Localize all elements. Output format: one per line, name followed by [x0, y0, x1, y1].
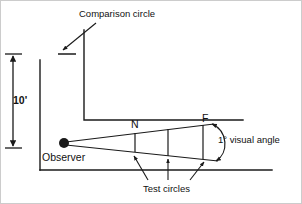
observer-label: Observer: [42, 152, 85, 163]
comparison-circle-label: Comparison circle: [79, 9, 155, 19]
observer-point: [59, 138, 69, 148]
figure-frame: [1, 1, 302, 204]
near-circle-label: N: [131, 119, 139, 130]
dimension-label: 10': [13, 95, 27, 106]
visual-angle-diagram: Comparison circle 10' Observer N F 1° vi…: [0, 0, 302, 204]
far-circle-label: F: [202, 113, 208, 124]
test-circles-label: Test circles: [143, 184, 190, 194]
diagram-canvas: [0, 0, 302, 204]
visual-angle-label: 1° visual angle: [218, 135, 280, 145]
